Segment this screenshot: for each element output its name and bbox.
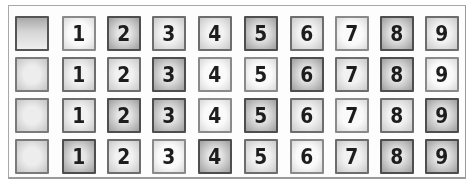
digit-tile-7[interactable]: 7	[335, 139, 369, 174]
digit-tile-1[interactable]: 1	[62, 139, 96, 174]
digit-tile-1[interactable]: 1	[62, 98, 96, 133]
tile-row-1: 1 2 3 4 5 6 7 8 9	[9, 16, 465, 51]
blank-tile[interactable]	[15, 16, 49, 51]
digit-tile-5[interactable]: 5	[244, 98, 278, 133]
digit-tile-3[interactable]: 3	[152, 139, 186, 174]
digit-tile-2[interactable]: 2	[107, 16, 141, 51]
digit-tile-9[interactable]: 9	[425, 57, 459, 92]
digit-tile-2[interactable]: 2	[107, 57, 141, 92]
digit-tile-3[interactable]: 3	[152, 98, 186, 133]
digit-tile-5[interactable]: 5	[244, 16, 278, 51]
digit-tile-1[interactable]: 1	[62, 16, 96, 51]
digit-tile-8[interactable]: 8	[380, 16, 414, 51]
digit-tile-7[interactable]: 7	[335, 57, 369, 92]
digit-tile-2[interactable]: 2	[107, 98, 141, 133]
digit-tile-4[interactable]: 4	[198, 98, 232, 133]
digit-tile-8[interactable]: 8	[380, 98, 414, 133]
digit-tile-4[interactable]: 4	[198, 16, 232, 51]
digit-tile-6[interactable]: 6	[290, 139, 324, 174]
digit-tile-7[interactable]: 7	[335, 98, 369, 133]
tile-row-2: 1 2 3 4 5 6 7 8 9	[9, 57, 465, 92]
digit-tile-1[interactable]: 1	[62, 57, 96, 92]
digit-tile-9[interactable]: 9	[425, 139, 459, 174]
digit-tile-8[interactable]: 8	[380, 139, 414, 174]
digit-tile-5[interactable]: 5	[244, 57, 278, 92]
digit-tile-3[interactable]: 3	[152, 16, 186, 51]
digit-tile-3[interactable]: 3	[152, 57, 186, 92]
digit-tile-9[interactable]: 9	[425, 16, 459, 51]
blank-tile[interactable]	[15, 98, 49, 133]
digit-tile-7[interactable]: 7	[335, 16, 369, 51]
digit-tile-6[interactable]: 6	[290, 57, 324, 92]
digit-tile-8[interactable]: 8	[380, 57, 414, 92]
tile-row-4: 1 2 3 4 5 6 7 8 9	[9, 139, 465, 174]
blank-tile[interactable]	[15, 139, 49, 174]
digit-tile-5[interactable]: 5	[244, 139, 278, 174]
digit-tile-2[interactable]: 2	[107, 139, 141, 174]
digit-tile-9[interactable]: 9	[425, 98, 459, 133]
digit-tile-6[interactable]: 6	[290, 16, 324, 51]
digit-tile-4[interactable]: 4	[198, 139, 232, 174]
tile-row-3: 1 2 3 4 5 6 7 8 9	[9, 98, 465, 133]
digit-tile-6[interactable]: 6	[290, 98, 324, 133]
blank-tile[interactable]	[15, 57, 49, 92]
digit-tile-4[interactable]: 4	[198, 57, 232, 92]
digit-tile-panel: 1 2 3 4 5 6 7 8 9 1 2 3 4 5 6 7 8 9 1 2 …	[8, 5, 466, 179]
